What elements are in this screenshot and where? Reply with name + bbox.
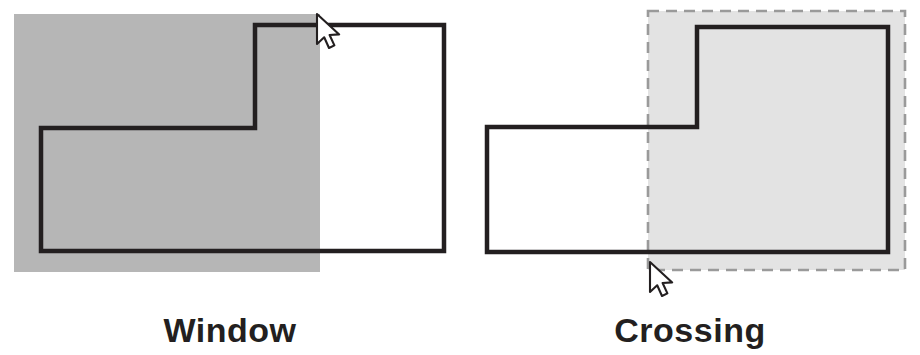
crossing-selection-box[interactable] xyxy=(648,11,905,270)
selection-modes-figure: Window Crossing xyxy=(0,0,920,355)
window-caption: Window xyxy=(0,313,460,347)
crossing-caption: Crossing xyxy=(460,313,920,347)
crossing-selection-diagram xyxy=(460,0,920,300)
window-selection-panel: Window xyxy=(0,0,460,355)
window-selection-box[interactable] xyxy=(14,14,320,272)
mouse-pointer-arrow-icon xyxy=(317,14,339,48)
window-selection-diagram xyxy=(0,0,460,300)
crossing-selection-panel: Crossing xyxy=(460,0,920,355)
